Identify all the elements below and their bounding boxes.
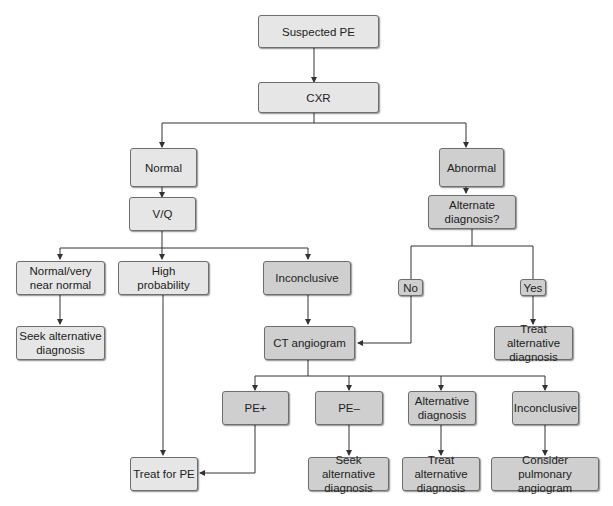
node-treat-alternative-diagnosis-2: Treat alternative diagnosis <box>402 457 480 491</box>
node-seek-alternative-diagnosis-1: Seek alternative diagnosis <box>16 326 105 360</box>
node-consider-pulmonary-angiogram: Consider pulmonary angiogram <box>491 457 599 491</box>
node-vq-inconclusive: Inconclusive <box>263 261 351 295</box>
node-normal: Normal <box>130 148 197 187</box>
node-treat-for-pe: Treat for PE <box>130 457 198 491</box>
node-vq-normal: Normal/very near normal <box>16 261 105 295</box>
node-treat-alternative-diagnosis-1: Treat alternative diagnosis <box>494 326 573 360</box>
node-abnormal: Abnormal <box>439 148 504 187</box>
node-pe-negative: PE– <box>315 391 383 425</box>
node-vq-high-probability: High probability <box>118 261 209 295</box>
connector-lines <box>0 0 613 506</box>
node-ct-inconclusive: Inconclusive <box>512 391 579 425</box>
node-ct-alternative-diagnosis: Alternative diagnosis <box>408 391 476 425</box>
flowchart: Suspected PE CXR Normal Abnormal V/Q Alt… <box>0 0 613 506</box>
node-alternate-diagnosis-question: Alternate diagnosis? <box>428 195 516 229</box>
node-vq: V/Q <box>129 197 196 231</box>
node-seek-alternative-diagnosis-2: Seek alternative diagnosis <box>308 457 389 491</box>
node-ct-angiogram: CT angiogram <box>264 326 355 360</box>
node-no: No <box>398 279 423 296</box>
node-yes: Yes <box>520 279 546 296</box>
node-pe-positive: PE+ <box>222 391 289 425</box>
node-suspected-pe: Suspected PE <box>258 15 379 48</box>
node-cxr: CXR <box>258 82 379 113</box>
